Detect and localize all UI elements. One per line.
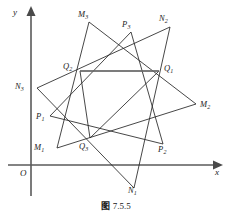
point-label-subscript: 3 xyxy=(85,14,88,20)
point-label-subscript: 2 xyxy=(165,18,168,24)
point-label-base: N xyxy=(159,13,165,23)
origin-label: O xyxy=(20,169,27,178)
x-axis-label: x xyxy=(215,168,219,177)
geometry-diagram xyxy=(0,0,232,223)
point-label-subscript: 1 xyxy=(134,190,137,196)
point-label-m2: M2 xyxy=(200,100,210,109)
point-label-subscript: 1 xyxy=(41,116,44,122)
point-label-n3: N3 xyxy=(15,82,24,91)
point-label-p3: P3 xyxy=(122,20,130,29)
point-label-base: N xyxy=(15,81,21,91)
point-label-subscript: 3 xyxy=(21,86,24,92)
coordinate-axes xyxy=(8,6,223,196)
point-label-q2: Q2 xyxy=(63,62,72,71)
point-label-n1: N1 xyxy=(128,186,137,195)
figure-container: y x O M1M2M3N1N2N3P1P2P3Q1Q2Q3 图 7.5.5 xyxy=(0,0,232,223)
triangle-M xyxy=(57,22,196,148)
figure-caption: 图 7.5.5 xyxy=(0,202,232,212)
triangle-N xyxy=(37,27,170,188)
point-label-p2: P2 xyxy=(158,145,166,154)
point-label-subscript: 3 xyxy=(127,24,130,30)
point-label-q1: Q1 xyxy=(164,64,173,73)
point-label-m3: M3 xyxy=(78,10,88,19)
point-label-subscript: 2 xyxy=(207,104,210,110)
figure-caption-number: 7.5.5 xyxy=(113,201,131,211)
polygon-layer xyxy=(37,22,196,188)
point-label-n2: N2 xyxy=(159,14,168,23)
y-axis-arrowhead xyxy=(27,6,36,16)
y-axis-label: y xyxy=(13,8,17,17)
point-label-base: N xyxy=(128,185,134,195)
point-label-subscript: 1 xyxy=(41,147,44,153)
point-label-subscript: 2 xyxy=(69,66,72,72)
point-label-subscript: 1 xyxy=(170,68,173,74)
point-label-subscript: 3 xyxy=(85,146,88,152)
point-label-subscript: 2 xyxy=(163,149,166,155)
point-label-p1: P1 xyxy=(36,112,44,121)
triangle-P xyxy=(50,32,163,144)
point-label-m1: M1 xyxy=(34,143,44,152)
point-label-q3: Q3 xyxy=(79,142,88,151)
